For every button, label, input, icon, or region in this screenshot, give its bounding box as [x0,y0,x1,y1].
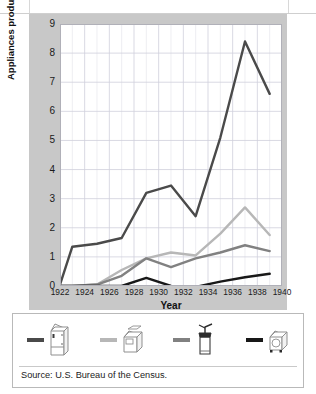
chart-screenshot: Appliances produced (in millions) 012345… [0,0,316,394]
legend-item-radio[interactable] [232,316,305,364]
radio-icon [266,323,292,357]
chart-panel: Appliances produced (in millions) 012345… [29,14,287,310]
legend-divider [19,366,297,367]
legend-line-swatch [100,338,117,342]
y-tick-label: 6 [49,106,55,116]
x-tick-label: 1932 [174,288,193,296]
y-tick-label: 7 [49,77,55,87]
y-tick-label: 2 [49,223,55,233]
legend-items [13,316,305,364]
y-tick-label: 3 [49,194,55,204]
y-tick-label: 9 [49,19,55,29]
legend-line-swatch [173,338,190,342]
y-tick-label: 8 [49,48,55,58]
legend-panel: Source: U.S. Bureau of the Census. [12,313,304,388]
vacuum-cleaner-icon [193,323,219,357]
x-tick-label: 1922 [51,288,70,296]
legend-item-washing-machine[interactable] [86,316,159,364]
source-note: Source: U.S. Bureau of the Census. [21,370,167,380]
line-chart-svg [60,24,282,286]
x-tick-label: 1938 [248,288,267,296]
x-tick-label: 1930 [149,288,168,296]
series-line-vacuum-cleaners [60,245,270,286]
y-axis-ticks: 0123456789 [29,24,58,286]
y-axis-title: Appliances produced (in millions) [5,0,16,80]
y-tick-label: 5 [49,135,55,145]
legend-line-swatch [246,338,263,342]
legend-item-refrigerator[interactable] [13,316,86,364]
legend-item-vacuum-cleaner[interactable] [159,316,232,364]
plot-area [60,24,282,286]
refrigerator-icon [47,323,73,357]
x-tick-label: 1924 [75,288,94,296]
legend-line-swatch [27,338,44,342]
x-tick-label: 1934 [199,288,218,296]
y-tick-label: 1 [49,252,55,262]
x-axis-title: Year [60,300,282,311]
x-tick-label: 1926 [100,288,119,296]
x-tick-label: 1936 [223,288,242,296]
top-white-strip [0,0,316,14]
x-tick-label: 1928 [125,288,144,296]
x-tick-label: 1940 [273,288,292,296]
washing-machine-icon [120,323,146,357]
y-tick-label: 4 [49,165,55,175]
